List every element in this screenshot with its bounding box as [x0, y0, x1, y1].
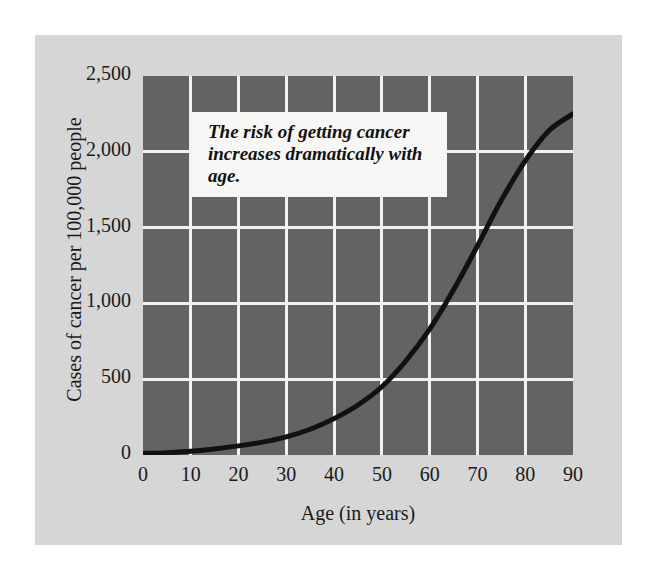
x-tick-label: 0 [123, 463, 163, 486]
x-tick-label: 50 [362, 463, 402, 486]
x-tick-label: 10 [171, 463, 211, 486]
x-tick-label: 90 [553, 463, 593, 486]
y-tick-label: 2,500 [35, 62, 131, 85]
x-tick-label: 30 [266, 463, 306, 486]
x-tick-label: 20 [219, 463, 259, 486]
x-tick-label: 80 [505, 463, 545, 486]
x-tick-label: 60 [410, 463, 450, 486]
y-axis-label: Cases of cancer per 100,000 people [63, 95, 86, 425]
x-tick-label: 40 [314, 463, 354, 486]
figure-card: 05001,0001,5002,0002,500 010203040506070… [35, 35, 622, 545]
x-tick-label: 70 [457, 463, 497, 486]
annotation-text: The risk of getting cancer increases dra… [208, 121, 433, 187]
y-tick-label: 0 [35, 441, 131, 464]
x-axis-label: Age (in years) [143, 502, 573, 525]
annotation-callout: The risk of getting cancer increases dra… [192, 112, 447, 197]
